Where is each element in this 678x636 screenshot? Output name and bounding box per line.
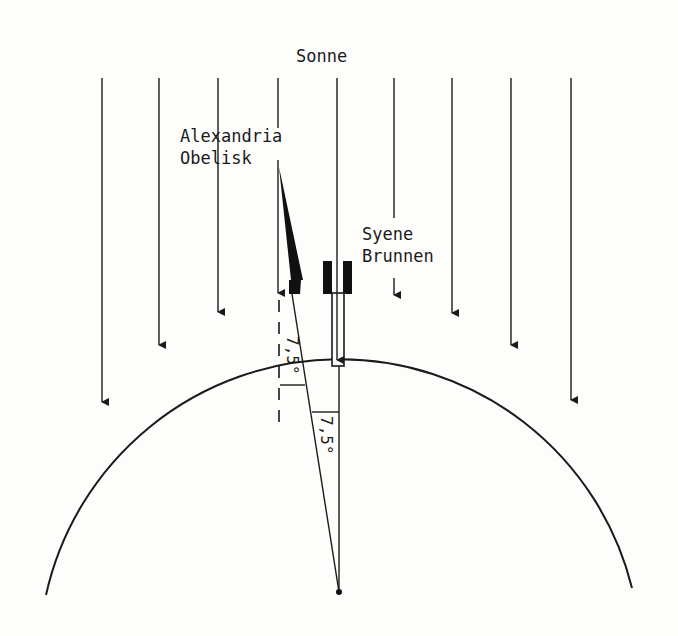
well-wall-right xyxy=(343,261,352,294)
eratosthenes-diagram xyxy=(0,0,678,636)
alexandria-label-line1: Alexandria xyxy=(180,126,282,146)
angle-label-shadow: 7,5° xyxy=(283,336,302,375)
obelisk-shape xyxy=(279,167,303,294)
well-wall-left xyxy=(323,261,332,294)
well-shaft xyxy=(332,293,344,366)
angle-label-center: 7,5° xyxy=(317,416,336,455)
syene-label-line1: Syene xyxy=(362,224,413,244)
earth-center-point xyxy=(336,589,342,595)
syene-label-line2: Brunnen xyxy=(362,246,434,266)
sun-label: Sonne xyxy=(296,46,347,66)
alexandria-label-line2: Obelisk xyxy=(180,148,252,168)
